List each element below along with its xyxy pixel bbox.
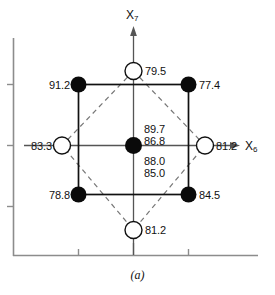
value-label-center-replicate-2: 86.8 xyxy=(144,136,165,147)
point-axial-right xyxy=(197,137,214,154)
point-axial-left xyxy=(54,137,71,154)
point-factorial-bottom-left xyxy=(71,187,87,203)
value-label-center-replicate-1: 89.7 xyxy=(144,124,165,135)
value-label-axial-left: 83.3 xyxy=(31,141,52,152)
point-factorial-top-left xyxy=(71,77,87,93)
figure-caption: (a) xyxy=(0,268,275,283)
point-center xyxy=(125,137,142,154)
figure-central-composite-design: 91.2 77.4 78.8 84.5 79.5 81.2 83.3 81.2 … xyxy=(0,0,275,295)
point-factorial-bottom-right xyxy=(181,187,197,203)
value-label-axial-right: 81.2 xyxy=(216,141,237,152)
value-label-factorial-bottom-right: 84.5 xyxy=(199,190,220,201)
point-axial-bottom xyxy=(125,222,142,239)
value-label-factorial-top-right: 77.4 xyxy=(199,80,220,91)
value-label-factorial-top-left: 91.2 xyxy=(49,80,70,91)
axis-label-x7: X7 xyxy=(126,8,138,22)
point-factorial-top-right xyxy=(181,77,197,93)
value-label-axial-bottom: 81.2 xyxy=(145,225,166,236)
axis-x7-arrowhead xyxy=(130,26,137,36)
value-label-factorial-bottom-left: 78.8 xyxy=(49,190,70,201)
value-label-center-replicate-3: 88.0 xyxy=(144,156,165,167)
value-label-axial-top: 79.5 xyxy=(145,66,166,77)
point-axial-top xyxy=(125,63,142,80)
axis-label-x6: X6 xyxy=(245,139,257,153)
value-label-center-replicate-4: 85.0 xyxy=(144,168,165,179)
